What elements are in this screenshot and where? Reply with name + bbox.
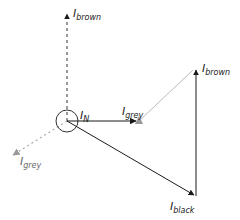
label-sub: brown bbox=[205, 68, 230, 77]
grey-reference-dotted-line bbox=[13, 121, 67, 155]
grey-to-brown-line bbox=[139, 70, 193, 121]
label-brown-top: Ibrown bbox=[73, 8, 101, 22]
label-sub: grey bbox=[23, 161, 41, 170]
phasor-diagram bbox=[0, 0, 240, 220]
label-sub: brown bbox=[76, 13, 101, 22]
label-sub: black bbox=[173, 206, 194, 215]
label-grey-bottom-left: Igrey bbox=[20, 156, 41, 170]
label-neutral: IN bbox=[80, 110, 89, 124]
label-brown-right: Ibrown bbox=[202, 63, 230, 77]
label-sub: grey bbox=[125, 111, 143, 120]
label-black-bottom: Iblack bbox=[170, 201, 194, 215]
label-sub: N bbox=[83, 115, 89, 124]
label-grey-mid: Igrey bbox=[122, 106, 143, 120]
black-current-vector bbox=[67, 121, 194, 195]
